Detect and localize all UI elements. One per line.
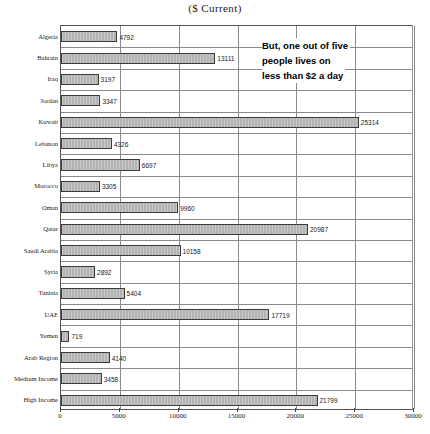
x-tick-mark [237, 408, 238, 412]
x-tick-mark [295, 408, 296, 412]
category-label-yemen: Yemen [2, 332, 58, 339]
poverty-callout-annotation: But, one out of fivepeople lives onless … [262, 38, 422, 83]
bar-value-label: 5404 [125, 290, 141, 297]
gridline-horizontal [61, 112, 412, 113]
bar-lebanon[interactable] [61, 138, 112, 149]
gridline-horizontal [61, 154, 412, 155]
bar-high-income[interactable] [61, 395, 318, 406]
bar-value-label: 25314 [359, 119, 379, 126]
y-axis-category-labels: AlgeriaBahrainIraqJordanKuwaitLebanonLib… [0, 25, 58, 410]
x-tick-label: 15000 [228, 412, 246, 420]
category-label-kuwait: Kuwait [2, 118, 58, 125]
x-tick-label: 0 [58, 412, 62, 420]
category-label-high-income: High Income [2, 396, 58, 403]
category-label-jordan: Jordan [2, 96, 58, 103]
annotation-line: But, one out of five [262, 38, 350, 53]
bar-value-label: 3305 [100, 183, 116, 190]
bar-value-label: 2892 [95, 268, 111, 275]
x-tick-label: 5000 [112, 412, 126, 420]
bar-oman[interactable] [61, 202, 178, 213]
x-tick-mark [60, 408, 61, 412]
bar-row[interactable]: 6697 [61, 159, 412, 170]
x-tick-mark [354, 408, 355, 412]
bar-value-label: 4140 [110, 354, 126, 361]
bar-value-label: 4792 [117, 33, 133, 40]
annotation-line: less than $2 a day [262, 68, 345, 83]
category-label-lebanon: Lebanon [2, 139, 58, 146]
bar-row[interactable]: 3458 [61, 373, 412, 384]
gridline-horizontal [61, 304, 412, 305]
bar-row[interactable]: 2892 [61, 266, 412, 277]
bar-yemen[interactable] [61, 331, 69, 342]
x-tick-label: 30000 [404, 412, 422, 420]
bar-row[interactable]: 719 [61, 331, 412, 342]
bar-value-label: 4326 [112, 140, 128, 147]
category-label-qatar: Qatar [2, 225, 58, 232]
x-tick-mark [413, 408, 414, 412]
bar-row[interactable]: 4326 [61, 138, 412, 149]
x-tick-mark [119, 408, 120, 412]
bar-morocco[interactable] [61, 181, 100, 192]
bar-value-label: 3458 [102, 375, 118, 382]
category-label-syria: Syria [2, 267, 58, 274]
bar-iraq[interactable] [61, 74, 99, 85]
chart-figure: ($ Current) AlgeriaBahrainIraqJordanKuwa… [0, 0, 430, 434]
bar-row[interactable]: 17719 [61, 309, 412, 320]
category-label-algeria: Algeria [2, 32, 58, 39]
bar-value-label: 6697 [140, 162, 156, 169]
bar-value-label: 21799 [318, 397, 338, 404]
bar-jordan[interactable] [61, 95, 100, 106]
bar-bahrain[interactable] [61, 53, 215, 64]
bar-row[interactable]: 25314 [61, 117, 412, 128]
category-label-bahrain: Bahrain [2, 54, 58, 61]
category-label-uae: UAE [2, 310, 58, 317]
bar-value-label: 3347 [100, 97, 116, 104]
gridline-horizontal [61, 90, 412, 91]
bar-value-label: 719 [69, 333, 82, 340]
gridline-horizontal [61, 325, 412, 326]
bar-value-label: 13111 [215, 55, 234, 62]
x-axis-tick-labels: 050001000015000200002500030000 [0, 412, 430, 426]
bar-value-label: 3197 [99, 76, 115, 83]
gridline-horizontal [61, 368, 412, 369]
bar-tunisia[interactable] [61, 288, 125, 299]
x-tick-mark [178, 408, 179, 412]
bar-row[interactable]: 5404 [61, 288, 412, 299]
bar-uae[interactable] [61, 309, 269, 320]
bar-value-label: 20987 [308, 226, 328, 233]
chart-title: ($ Current) [0, 2, 430, 14]
gridline-horizontal [61, 283, 412, 284]
category-label-medium-income: Medium Income [2, 374, 58, 381]
category-label-iraq: Iraq [2, 75, 58, 82]
bar-algeria[interactable] [61, 31, 117, 42]
bar-row[interactable]: 20987 [61, 224, 412, 235]
bar-medium-income[interactable] [61, 373, 102, 384]
bar-row[interactable]: 3305 [61, 181, 412, 192]
bar-qatar[interactable] [61, 224, 308, 235]
gridline-horizontal [61, 219, 412, 220]
bottom-caption [4, 427, 428, 434]
bar-row[interactable]: 3347 [61, 95, 412, 106]
bar-value-label: 9960 [178, 204, 194, 211]
gridline-horizontal [61, 261, 412, 262]
bar-row[interactable]: 21799 [61, 395, 412, 406]
gridline-horizontal [61, 176, 412, 177]
category-label-arab-region: Arab Region [2, 353, 58, 360]
gridline-horizontal [61, 347, 412, 348]
annotation-line: people lives on [262, 53, 333, 68]
category-label-oman: Oman [2, 203, 58, 210]
gridline-horizontal [61, 133, 412, 134]
bar-row[interactable]: 9960 [61, 202, 412, 213]
bar-row[interactable]: 10158 [61, 245, 412, 256]
gridline-horizontal [61, 390, 412, 391]
category-label-libya: Libya [2, 161, 58, 168]
bar-syria[interactable] [61, 266, 95, 277]
bar-saudi-arabia[interactable] [61, 245, 181, 256]
bar-arab-region[interactable] [61, 352, 110, 363]
bar-kuwait[interactable] [61, 117, 359, 128]
gridline-vertical [414, 26, 415, 409]
bar-value-label: 17719 [269, 311, 289, 318]
bar-libya[interactable] [61, 159, 140, 170]
bar-row[interactable]: 4140 [61, 352, 412, 363]
x-tick-label: 25000 [345, 412, 363, 420]
